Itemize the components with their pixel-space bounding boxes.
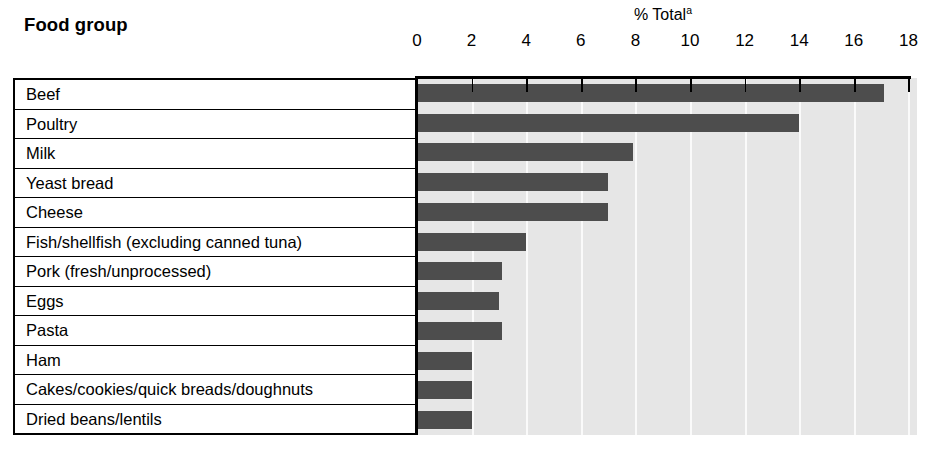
x-axis-title-footnote-marker: a xyxy=(686,4,692,16)
food-group-row: Milk xyxy=(15,139,415,169)
plot-area xyxy=(417,78,917,435)
food-group-label: Pasta xyxy=(26,322,68,339)
bar xyxy=(417,143,633,161)
bar-slot xyxy=(417,346,917,376)
bar xyxy=(417,322,502,340)
food-group-row: Cheese xyxy=(15,198,415,228)
x-axis-tick-label: 6 xyxy=(576,31,585,51)
x-axis-tick-mark xyxy=(745,78,747,92)
x-axis-tick-label: 14 xyxy=(790,31,809,51)
x-axis-tick-label: 16 xyxy=(844,31,863,51)
bar-slot xyxy=(417,405,917,435)
x-axis-tick-label: 10 xyxy=(681,31,700,51)
x-axis-tick-mark xyxy=(581,78,583,92)
bar-slot xyxy=(417,376,917,406)
bar xyxy=(417,292,499,310)
bar-slot xyxy=(417,108,917,138)
food-group-row: Pasta xyxy=(15,316,415,346)
food-group-label: Ham xyxy=(26,352,61,369)
bar xyxy=(417,411,472,429)
food-group-label: Dried beans/lentils xyxy=(26,411,162,428)
food-group-label: Fish/shellfish (excluding canned tuna) xyxy=(26,234,302,251)
food-group-label: Pork (fresh/unprocessed) xyxy=(26,263,211,280)
food-group-label: Yeast bread xyxy=(26,175,113,192)
x-axis-tick-label: 18 xyxy=(899,31,918,51)
x-axis-tick-mark xyxy=(526,78,528,92)
food-group-row: Poultry xyxy=(15,110,415,140)
food-group-row: Fish/shellfish (excluding canned tuna) xyxy=(15,228,415,258)
x-axis-tick-labels: 024681012141618 xyxy=(0,31,928,57)
food-group-label: Eggs xyxy=(26,293,64,310)
bar xyxy=(417,262,502,280)
x-axis-tick-mark xyxy=(799,78,801,92)
bar xyxy=(417,173,608,191)
bar-slot xyxy=(417,138,917,168)
x-axis-tick-mark xyxy=(908,78,910,92)
x-axis-title: % Totala xyxy=(417,6,909,24)
bar-slot xyxy=(417,286,917,316)
x-axis-tick-label: 12 xyxy=(735,31,754,51)
bar xyxy=(417,114,799,132)
x-axis-tick-mark xyxy=(854,78,856,92)
bar-slot xyxy=(417,197,917,227)
x-axis-tick-label: 8 xyxy=(631,31,640,51)
food-group-label: Beef xyxy=(26,86,60,103)
y-axis-line xyxy=(415,76,418,435)
bar xyxy=(417,203,608,221)
food-group-label: Cakes/cookies/quick breads/doughnuts xyxy=(26,381,313,398)
bar-slot xyxy=(417,227,917,257)
bar-slot xyxy=(417,167,917,197)
bar-slot xyxy=(417,316,917,346)
food-group-label: Milk xyxy=(26,145,55,162)
x-axis-tick-label: 4 xyxy=(521,31,530,51)
bar-series xyxy=(417,78,917,435)
bar-chart-figure: Food group % Totala 024681012141618 Beef… xyxy=(0,0,928,452)
food-group-row: Yeast bread xyxy=(15,169,415,199)
x-axis-tick-mark xyxy=(472,78,474,92)
bar xyxy=(417,233,526,251)
food-group-row: Dried beans/lentils xyxy=(15,405,415,434)
food-group-row: Eggs xyxy=(15,287,415,317)
x-axis-tick-label: 2 xyxy=(467,31,476,51)
x-axis-tick-mark xyxy=(635,78,637,92)
food-group-row: Ham xyxy=(15,346,415,376)
x-axis-tick-label: 0 xyxy=(412,31,421,51)
food-group-label: Poultry xyxy=(26,116,77,133)
bar xyxy=(417,381,472,399)
x-axis-tick-mark xyxy=(690,78,692,92)
x-axis-ticks xyxy=(417,78,917,92)
x-axis-title-text: % Total xyxy=(634,6,686,23)
bar-slot xyxy=(417,257,917,287)
food-group-label-table: BeefPoultryMilkYeast breadCheeseFish/she… xyxy=(13,78,417,435)
food-group-row: Beef xyxy=(15,80,415,110)
bar xyxy=(417,352,472,370)
food-group-label: Cheese xyxy=(26,204,83,221)
food-group-row: Pork (fresh/unprocessed) xyxy=(15,257,415,287)
food-group-row: Cakes/cookies/quick breads/doughnuts xyxy=(15,375,415,405)
